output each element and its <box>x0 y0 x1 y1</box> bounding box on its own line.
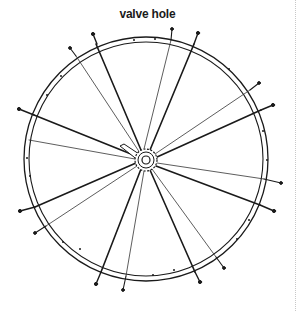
spoke <box>126 171 144 276</box>
wheel-svg <box>0 0 301 311</box>
spoke <box>152 169 216 257</box>
spoke <box>150 170 195 272</box>
spoke <box>157 110 261 157</box>
valve-hole-label: valve hole <box>0 6 301 21</box>
wheel-diagram <box>0 0 301 311</box>
spoke <box>156 166 260 205</box>
spoke <box>101 169 141 272</box>
dotted-divider <box>295 0 296 311</box>
spoke <box>157 163 264 179</box>
valve-hole-text: valve hole <box>119 6 175 21</box>
axle <box>142 156 150 164</box>
